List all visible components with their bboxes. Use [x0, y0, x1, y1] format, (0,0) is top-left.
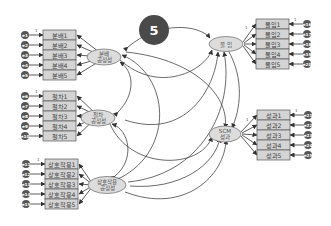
structural-paths	[110, 27, 239, 198]
svg-text:1: 1	[35, 28, 38, 33]
indicator-box: 몰입5	[256, 59, 289, 69]
svg-text:절차5: 절차5	[52, 133, 68, 141]
indicator-box: 몰입4	[256, 49, 289, 59]
error-term: e21	[304, 111, 313, 119]
group-interactional-justice: 상호작용1 상호작용2 상호작용3 상호작용4 상호작용5 e11 e12 e1…	[22, 157, 126, 209]
svg-text:e8: e8	[22, 114, 28, 119]
svg-text:e18: e18	[303, 42, 312, 47]
svg-text:e2: e2	[22, 43, 28, 48]
error-term: e19	[303, 50, 312, 58]
indicator-box: 상호작용4	[45, 189, 78, 199]
indicator-box: 상호작용1	[45, 159, 78, 169]
svg-text:성과4: 성과4	[266, 142, 282, 150]
indicator-box: 절차1	[43, 91, 76, 101]
svg-text:몰입3: 몰입3	[265, 41, 281, 48]
error-term: e23	[304, 131, 313, 139]
svg-text:e11: e11	[22, 162, 31, 167]
indicator-box: 성과2	[257, 120, 290, 130]
svg-text:e6: e6	[22, 94, 28, 99]
svg-text:분배3: 분배3	[52, 52, 68, 60]
svg-text:절차2: 절차2	[52, 103, 68, 111]
svg-text:e12: e12	[22, 172, 31, 177]
error-term: e1	[21, 31, 29, 39]
latent-distributive-justice: 분배 공정성	[87, 49, 121, 65]
error-term: e3	[21, 51, 29, 59]
indicator-box: 상호작용2	[45, 169, 78, 179]
svg-text:분배2: 분배2	[52, 42, 68, 50]
error-term: e12	[22, 170, 31, 178]
svg-text:e5: e5	[22, 73, 28, 78]
indicator-box: 절차3	[43, 111, 76, 121]
svg-text:몰 입: 몰 입	[220, 41, 232, 48]
error-term: e17	[303, 30, 312, 38]
svg-text:e19: e19	[303, 52, 312, 57]
step-badge: 5	[139, 15, 169, 45]
svg-text:e15: e15	[22, 202, 31, 207]
error-term: e13	[22, 180, 31, 188]
svg-text:e4: e4	[22, 63, 28, 68]
svg-text:성과1: 성과1	[266, 112, 282, 120]
svg-text:e10: e10	[21, 134, 30, 139]
error-term: e24	[304, 141, 313, 149]
svg-text:상호작용3: 상호작용3	[48, 181, 76, 189]
indicator-box: 절차4	[43, 121, 76, 131]
error-term: e18	[303, 40, 312, 48]
svg-text:e14: e14	[22, 192, 31, 197]
indicator-box: 분배4	[43, 60, 76, 70]
svg-text:e24: e24	[304, 143, 313, 148]
svg-text:몰입2: 몰입2	[265, 31, 281, 38]
error-term: e6	[21, 92, 29, 100]
indicator-box: 성과3	[257, 130, 290, 140]
svg-text:몰입5: 몰입5	[265, 61, 281, 68]
svg-text:공정성: 공정성	[97, 56, 112, 63]
svg-text:1: 1	[294, 17, 297, 22]
error-term: e9	[21, 122, 29, 130]
latent-scm-performance: SCM 성과	[209, 126, 241, 142]
error-term: e25	[304, 151, 313, 159]
indicator-box: 상호작용3	[45, 179, 78, 189]
svg-text:e16: e16	[303, 22, 312, 27]
latent-procedural-justice: 절차 공정성	[81, 110, 115, 126]
svg-text:1: 1	[35, 89, 38, 94]
svg-text:몰입4: 몰입4	[265, 51, 281, 58]
svg-text:SCM: SCM	[219, 128, 231, 134]
error-term: e2	[21, 41, 29, 49]
svg-text:공정성: 공정성	[100, 184, 115, 191]
svg-text:절차4: 절차4	[52, 123, 68, 131]
svg-text:분배4: 분배4	[52, 62, 68, 70]
badge-number: 5	[149, 23, 158, 38]
svg-text:몰입1: 몰입1	[265, 21, 281, 28]
error-term: e10	[21, 132, 30, 140]
svg-text:1: 1	[295, 108, 298, 113]
error-term: e20	[303, 60, 312, 68]
latent-interactional-justice: 상호작용 공정성	[88, 177, 126, 194]
error-term: e14	[22, 190, 31, 198]
error-term: e5	[21, 71, 29, 79]
indicator-box: 절차5	[43, 131, 76, 141]
error-term: e4	[21, 61, 29, 69]
indicator-box: 분배2	[43, 40, 76, 50]
sem-path-diagram: 5 분배1 분배2 분배3 분배4 분배5 e1 e2 e3 e4 e5 1 분…	[0, 0, 331, 226]
svg-text:분배1: 분배1	[52, 32, 68, 40]
svg-text:1: 1	[245, 25, 248, 30]
svg-text:상호작용5: 상호작용5	[48, 201, 76, 209]
svg-text:e13: e13	[22, 182, 31, 187]
svg-text:성과3: 성과3	[266, 132, 282, 140]
indicator-box: 몰입1	[256, 19, 289, 29]
group-commitment: 몰입1 몰입2 몰입3 몰입4 몰입5 e16 e17 e18 e19 e20 …	[209, 17, 311, 69]
svg-text:e7: e7	[22, 104, 28, 109]
error-term: e11	[22, 160, 31, 168]
indicator-box: 성과5	[257, 150, 290, 160]
group-distributive-justice: 분배1 분배2 분배3 분배4 분배5 e1 e2 e3 e4 e5 1 분배 …	[21, 28, 121, 80]
svg-text:상호작용2: 상호작용2	[48, 171, 76, 179]
latent-commitment: 몰 입	[209, 37, 243, 52]
svg-text:e9: e9	[22, 124, 28, 129]
svg-text:성과5: 성과5	[266, 152, 282, 160]
svg-text:성과: 성과	[220, 133, 230, 141]
indicator-box: 성과1	[257, 110, 290, 120]
group-procedural-justice: 절차1 절차2 절차3 절차4 절차5 e6 e7 e8 e9 e10 1 절차…	[21, 89, 115, 141]
indicator-box: 분배5	[43, 70, 76, 80]
indicator-box: 절차2	[43, 101, 76, 111]
indicator-box: 몰입3	[256, 39, 289, 49]
error-term: e7	[21, 102, 29, 110]
